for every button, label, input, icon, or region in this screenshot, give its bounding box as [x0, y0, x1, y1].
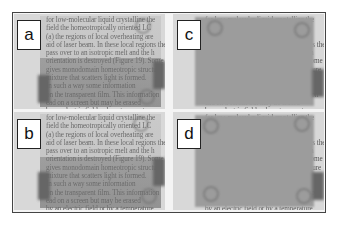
panel-label-b: b [17, 119, 41, 149]
dark-edge [153, 61, 165, 89]
circle-mark [296, 188, 312, 204]
panel-label-d: d [177, 119, 201, 149]
dark-edge [38, 75, 50, 103]
circle-mark [207, 20, 223, 36]
dark-edge [38, 172, 50, 200]
dark-edge [312, 69, 324, 97]
text-line: by an electric field or by a temperature [46, 107, 163, 109]
dark-edge [312, 172, 324, 200]
text-line: by an electric field or by a temperature [205, 107, 322, 109]
dark-edge [153, 158, 165, 186]
panel-label-c: c [177, 20, 201, 50]
circle-mark [135, 18, 151, 34]
circle-mark [203, 118, 219, 134]
circle-mark [141, 188, 157, 204]
circle-mark [203, 186, 219, 202]
circle-mark [294, 22, 310, 38]
circle-mark [139, 89, 155, 105]
panel-label-a: a [17, 20, 41, 50]
circle-mark [133, 116, 149, 132]
circle-mark [294, 116, 310, 132]
